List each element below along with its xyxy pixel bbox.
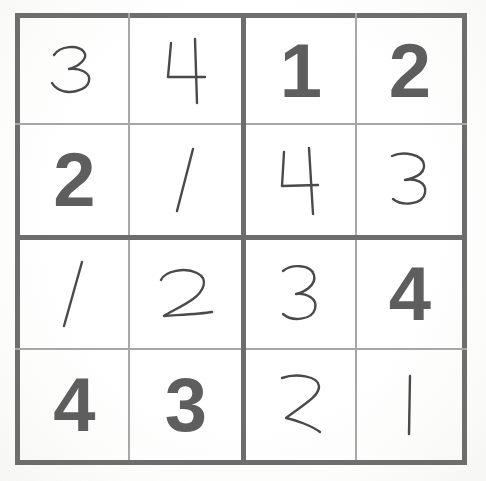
digit-handwritten-2 bbox=[155, 266, 217, 322]
cell-r4c3[interactable] bbox=[246, 350, 355, 460]
digit-printed-4: 4 bbox=[389, 256, 430, 332]
digit-handwritten-4 bbox=[272, 142, 330, 218]
cell-r2c1[interactable]: 2 bbox=[20, 125, 128, 235]
cell-r3c2[interactable] bbox=[130, 240, 241, 348]
digit-handwritten-3 bbox=[44, 40, 104, 102]
digit-printed-2: 2 bbox=[53, 142, 94, 218]
cell-r1c2[interactable] bbox=[130, 18, 241, 123]
digit-handwritten-1 bbox=[169, 145, 203, 215]
cell-r1c1[interactable] bbox=[20, 18, 128, 123]
cell-r3c3[interactable] bbox=[246, 240, 355, 348]
cell-r3c1[interactable] bbox=[20, 240, 128, 348]
sudoku-grid[interactable]: 1 2 2 bbox=[15, 13, 467, 465]
cell-r3c4[interactable]: 4 bbox=[357, 240, 462, 348]
digit-printed-3: 3 bbox=[165, 367, 206, 443]
digit-handwritten-3 bbox=[383, 148, 437, 212]
cell-r4c2[interactable]: 3 bbox=[130, 350, 241, 460]
digit-printed-4: 4 bbox=[53, 367, 94, 443]
digit-handwritten-3 bbox=[275, 261, 327, 327]
cell-r1c4[interactable]: 2 bbox=[357, 18, 462, 123]
cell-r2c4[interactable] bbox=[357, 125, 462, 235]
digit-handwritten-4 bbox=[157, 35, 215, 107]
cell-r4c4[interactable] bbox=[357, 350, 462, 460]
digit-handwritten-2 bbox=[274, 370, 328, 440]
cell-r2c2[interactable] bbox=[130, 125, 241, 235]
digit-handwritten-1 bbox=[57, 258, 91, 330]
digit-printed-1: 1 bbox=[280, 33, 321, 109]
cell-r2c3[interactable] bbox=[246, 125, 355, 235]
cell-r4c1[interactable]: 4 bbox=[20, 350, 128, 460]
digit-printed-2: 2 bbox=[389, 33, 430, 109]
sudoku-page: 1 2 2 bbox=[0, 0, 486, 481]
cell-r1c3[interactable]: 1 bbox=[246, 18, 355, 123]
digit-handwritten-1 bbox=[399, 373, 421, 437]
